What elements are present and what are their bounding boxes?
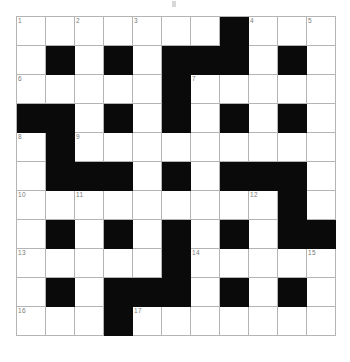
crossword-cell-open[interactable] [249, 307, 278, 336]
crossword-cell-open[interactable] [46, 307, 75, 336]
crossword-cell-open[interactable] [75, 278, 104, 307]
crossword-cell-open[interactable] [220, 191, 249, 220]
crossword-cell-open[interactable] [249, 46, 278, 75]
crossword-cell-open[interactable] [307, 191, 336, 220]
crossword-cell-open[interactable] [46, 191, 75, 220]
crossword-cell-block [278, 104, 307, 133]
crossword-cell-open[interactable]: 3 [133, 17, 162, 46]
crossword-cell-open[interactable] [104, 133, 133, 162]
crossword-cell-open[interactable] [162, 191, 191, 220]
crossword-cell-open[interactable] [104, 17, 133, 46]
crossword-cell-open[interactable] [220, 249, 249, 278]
crossword-cell-open[interactable] [249, 104, 278, 133]
crossword-cell-open[interactable]: 10 [17, 191, 46, 220]
crossword-cell-open[interactable] [307, 75, 336, 104]
crossword-cell-open[interactable] [133, 220, 162, 249]
clue-number-1: 1 [18, 17, 22, 25]
crossword-cell-open[interactable] [133, 104, 162, 133]
crossword-cell-open[interactable]: 16 [17, 307, 46, 336]
crossword-cell-open[interactable] [75, 307, 104, 336]
crossword-cell-open[interactable] [249, 220, 278, 249]
crossword-cell-open[interactable] [278, 17, 307, 46]
crossword-cell-open[interactable] [17, 278, 46, 307]
crossword-cell-open[interactable]: 14 [191, 249, 220, 278]
crossword-cell-open[interactable] [133, 162, 162, 191]
crossword-cell-open[interactable] [17, 46, 46, 75]
crossword-cell-open[interactable] [307, 104, 336, 133]
crossword-cell-open[interactable] [133, 75, 162, 104]
crossword-cell-open[interactable] [307, 133, 336, 162]
crossword-cell-open[interactable] [249, 249, 278, 278]
crossword-cell-open[interactable] [249, 278, 278, 307]
crossword-cell-open[interactable] [191, 162, 220, 191]
clue-number-8: 8 [18, 133, 22, 141]
crossword-cell-open[interactable] [249, 75, 278, 104]
crossword-cell-open[interactable] [191, 307, 220, 336]
crossword-cell-open[interactable]: 8 [17, 133, 46, 162]
crossword-cell-open[interactable]: 7 [191, 75, 220, 104]
crossword-cell-block [220, 104, 249, 133]
crossword-cell-open[interactable] [17, 220, 46, 249]
crossword-cell-open[interactable] [249, 133, 278, 162]
crossword-cell-open[interactable] [191, 191, 220, 220]
crossword-cell-open[interactable] [220, 307, 249, 336]
crossword-cell-open[interactable] [278, 307, 307, 336]
crossword-cell-open[interactable] [307, 307, 336, 336]
crossword-cell-open[interactable] [104, 191, 133, 220]
crossword-cell-block [220, 220, 249, 249]
crossword-cell-open[interactable] [162, 17, 191, 46]
crossword-cell-open[interactable] [278, 75, 307, 104]
crossword-cell-block [162, 249, 191, 278]
crossword-cell-open[interactable] [75, 46, 104, 75]
crossword-cell-open[interactable] [307, 278, 336, 307]
crossword-cell-block [162, 104, 191, 133]
crossword-cell-open[interactable]: 12 [249, 191, 278, 220]
crossword-cell-open[interactable] [17, 162, 46, 191]
crossword-cell-open[interactable] [133, 133, 162, 162]
crossword-cell-open[interactable]: 4 [249, 17, 278, 46]
crossword-cell-open[interactable] [191, 17, 220, 46]
crossword-cell-open[interactable] [75, 75, 104, 104]
crossword-cell-open[interactable] [220, 133, 249, 162]
crossword-cell-open[interactable]: 15 [307, 249, 336, 278]
crossword-cell-open[interactable] [162, 133, 191, 162]
crossword-cell-open[interactable] [46, 249, 75, 278]
crossword-cell-open[interactable]: 2 [75, 17, 104, 46]
crossword-cell-open[interactable] [133, 46, 162, 75]
clue-number-15: 15 [308, 249, 316, 257]
clue-number-2: 2 [76, 17, 80, 25]
crossword-cell-block [220, 46, 249, 75]
crossword-cell-open[interactable] [307, 46, 336, 75]
crossword-cell-open[interactable] [278, 133, 307, 162]
crossword-cell-open[interactable] [278, 249, 307, 278]
crossword-cell-open[interactable]: 5 [307, 17, 336, 46]
clue-number-3: 3 [134, 17, 138, 25]
clue-number-10: 10 [18, 191, 26, 199]
crossword-cell-open[interactable]: 17 [133, 307, 162, 336]
crossword-cell-open[interactable] [162, 307, 191, 336]
crossword-cell-open[interactable]: 9 [75, 133, 104, 162]
crossword-cell-block [162, 278, 191, 307]
crossword-grid[interactable]: 1234567891011121314151617 [16, 16, 336, 336]
crossword-cell-block [162, 162, 191, 191]
crossword-cell-open[interactable] [220, 75, 249, 104]
crossword-cell-open[interactable]: 13 [17, 249, 46, 278]
crossword-cell-open[interactable] [104, 249, 133, 278]
crossword-cell-open[interactable] [191, 220, 220, 249]
crossword-cell-open[interactable] [133, 249, 162, 278]
crossword-cell-block [46, 133, 75, 162]
crossword-cell-open[interactable]: 11 [75, 191, 104, 220]
crossword-cell-open[interactable] [46, 17, 75, 46]
crossword-cell-open[interactable] [191, 133, 220, 162]
crossword-cell-open[interactable] [75, 249, 104, 278]
crossword-cell-open[interactable] [75, 104, 104, 133]
crossword-cell-open[interactable] [191, 278, 220, 307]
crossword-cell-open[interactable] [133, 191, 162, 220]
crossword-cell-open[interactable] [75, 220, 104, 249]
crossword-cell-open[interactable] [104, 75, 133, 104]
crossword-cell-open[interactable]: 1 [17, 17, 46, 46]
crossword-cell-open[interactable] [191, 104, 220, 133]
crossword-cell-open[interactable] [46, 75, 75, 104]
crossword-cell-open[interactable]: 6 [17, 75, 46, 104]
crossword-cell-open[interactable] [307, 162, 336, 191]
